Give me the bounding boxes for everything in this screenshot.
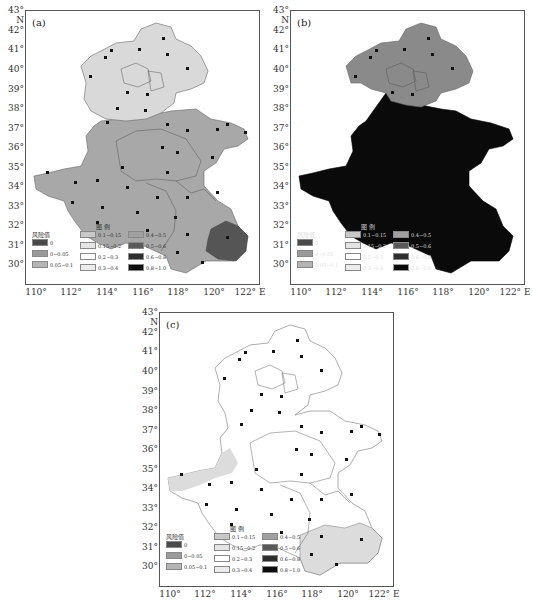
y-tick-label: 43° N	[134, 307, 158, 327]
legend-swatch	[214, 544, 230, 551]
legend-item: 0.15~0.2	[345, 241, 386, 250]
y-tick-label: 41°	[0, 44, 24, 54]
y-tick-label: 41°	[265, 44, 289, 54]
legend-swatch	[393, 264, 409, 271]
map-frame-a: (a) 图 例 风险值 0 0~0.05 0.05~0.1 0.1~0.15 0…	[25, 10, 260, 285]
legend-swatch	[32, 239, 48, 246]
legend-item: 0.05~0.1	[32, 260, 73, 269]
x-tick-label: 122° E	[497, 287, 533, 297]
legend-swatch	[128, 264, 144, 271]
y-tick-label: 34°	[265, 181, 289, 191]
y-tick-label: 40°	[265, 64, 289, 74]
x-tick-label: 120°	[464, 287, 494, 297]
legend-swatch	[214, 533, 230, 540]
y-tick-label: 35°	[0, 162, 24, 172]
legend-swatch	[32, 250, 48, 257]
x-tick-label: 120°	[333, 589, 363, 599]
legend-item: 0.2~0.3	[345, 252, 383, 261]
legend-item: 0.05~0.1	[297, 260, 338, 269]
legend-swatch	[262, 544, 278, 551]
legend-item: 0.05~0.1	[166, 562, 207, 571]
legend-item: 0	[297, 238, 318, 247]
legend-item: 0	[166, 540, 187, 549]
legend-swatch	[214, 555, 230, 562]
x-tick-label: 118°	[163, 287, 193, 297]
legend-swatch	[80, 264, 96, 271]
panel-c: (c) 图 例 风险值 0 0~0.05 0.05~0.1 0.1~0.15 0…	[134, 302, 399, 604]
legend-swatch	[262, 555, 278, 562]
legend-swatch	[345, 231, 361, 238]
x-tick-label: 110°	[155, 589, 185, 599]
x-tick-label: 112°	[190, 589, 220, 599]
legend-swatch	[345, 242, 361, 249]
y-tick-label: 33°	[265, 201, 289, 211]
y-tick-label: 30°	[265, 259, 289, 269]
legend-item: 0.4~0.5	[262, 532, 300, 541]
y-tick-label: 42°	[0, 25, 24, 35]
y-tick-label: 38°	[134, 405, 158, 415]
legend-swatch	[80, 242, 96, 249]
legend-item: 0	[32, 238, 53, 247]
legend-b: 图 例 风险值 0 0~0.05 0.05~0.1 0.1~0.15 0.15~…	[295, 222, 445, 282]
legend-item: 0.6~0.8	[128, 252, 166, 261]
y-tick-label: 37°	[134, 425, 158, 435]
x-tick-label: 110°	[286, 287, 316, 297]
legend-item: 0.6~0.8	[393, 252, 431, 261]
y-tick-label: 41°	[134, 346, 158, 356]
legend-item: 0.5~0.6	[393, 241, 431, 250]
legend-item: 0.4~0.5	[393, 230, 431, 239]
y-tick-label: 30°	[0, 259, 24, 269]
x-tick-label: 116°	[393, 287, 423, 297]
map-frame-b: (b) 图 例 风险值 0 0~0.05 0.05~0.1 0.1~0.15 0…	[290, 10, 525, 285]
y-tick-label: 38°	[265, 103, 289, 113]
panel-label-b: (b)	[297, 17, 311, 28]
y-tick-label: 39°	[134, 386, 158, 396]
y-tick-label: 32°	[265, 220, 289, 230]
y-tick-label: 34°	[0, 181, 24, 191]
x-tick-label: 116°	[128, 287, 158, 297]
x-tick-label: 122° E	[232, 287, 268, 297]
legend-swatch	[393, 253, 409, 260]
legend-item: 0.5~0.6	[262, 543, 300, 552]
legend-item: 0.8~1.0	[128, 263, 166, 272]
legend-item: 0.8~1.0	[262, 565, 300, 574]
x-tick-label: 112°	[56, 287, 86, 297]
legend-item: 0~0.05	[297, 249, 334, 258]
panel-label-a: (a)	[32, 17, 46, 28]
legend-swatch	[262, 566, 278, 573]
legend-swatch	[128, 253, 144, 260]
y-tick-label: 35°	[134, 464, 158, 474]
legend-item: 0.1~0.15	[214, 532, 255, 541]
x-tick-label: 114°	[92, 287, 122, 297]
x-tick-label: 114°	[357, 287, 387, 297]
legend-item: 0~0.05	[32, 249, 69, 258]
y-tick-label: 36°	[265, 142, 289, 152]
legend-swatch	[297, 250, 313, 257]
legend-swatch	[128, 242, 144, 249]
legend-item: 0.5~0.6	[128, 241, 166, 250]
y-tick-label: 42°	[265, 25, 289, 35]
y-tick-label: 43° N	[0, 5, 24, 25]
y-tick-label: 37°	[265, 123, 289, 133]
y-tick-label: 40°	[134, 366, 158, 376]
y-tick-label: 33°	[0, 201, 24, 211]
legend-swatch	[297, 261, 313, 268]
x-tick-label: 112°	[321, 287, 351, 297]
y-tick-label: 30°	[134, 561, 158, 571]
legend-swatch	[166, 552, 182, 559]
y-tick-label: 35°	[265, 162, 289, 172]
y-tick-label: 40°	[0, 64, 24, 74]
legend-swatch	[128, 231, 144, 238]
y-tick-label: 31°	[134, 542, 158, 552]
map-frame-c: (c) 图 例 风险值 0 0~0.05 0.05~0.1 0.1~0.15 0…	[159, 312, 394, 587]
legend-swatch	[393, 242, 409, 249]
panel-a: (a) 图 例 风险值 0 0~0.05 0.05~0.1 0.1~0.15 0…	[0, 0, 265, 300]
legend-swatch	[345, 253, 361, 260]
y-tick-label: 34°	[134, 483, 158, 493]
y-tick-label: 39°	[265, 84, 289, 94]
x-tick-label: 110°	[21, 287, 51, 297]
legend-swatch	[80, 231, 96, 238]
x-tick-label: 118°	[297, 589, 327, 599]
x-tick-label: 122° E	[366, 589, 402, 599]
legend-item: 0.3~0.4	[80, 263, 118, 272]
